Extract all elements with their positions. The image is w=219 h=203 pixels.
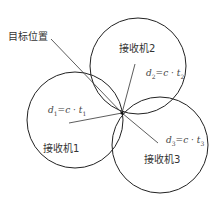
receiver-2-label: 接收机2: [119, 44, 155, 54]
tdoa-diagram: 目标位置 接收机2 d2=c · t2 d1=c · t1 接收机1 d3=c …: [0, 0, 219, 203]
target-point-marker: [120, 111, 123, 114]
receiver-1-formula: d1=c · t1: [48, 106, 86, 117]
receiver-3-label: 接收机3: [144, 155, 180, 165]
receiver-2-range-circle: [90, 18, 186, 114]
receiver-2-formula: d2=c · t2: [146, 69, 184, 80]
receiver-3-formula: d3=c · t3: [166, 136, 204, 147]
receiver-1-label: 接收机1: [43, 144, 79, 154]
target-position-label: 目标位置: [8, 32, 48, 42]
target-pointer-line: [51, 39, 122, 113]
receiver-3-distance-line: [122, 113, 158, 143]
